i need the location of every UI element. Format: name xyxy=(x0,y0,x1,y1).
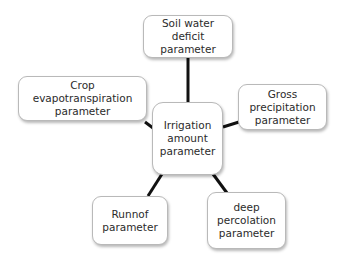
node-label-line: amount xyxy=(160,132,215,145)
node-irrigation-amount: Irrigation amount parameter xyxy=(152,102,223,175)
node-label-line: parameter xyxy=(249,114,315,127)
node-label-line: parameter xyxy=(102,221,157,234)
node-label-line: parameter xyxy=(147,43,229,56)
node-label-line: parameter xyxy=(160,145,215,158)
node-gross-precipitation: Gross precipitation parameter xyxy=(238,84,327,130)
node-label-line: Soil water deficit xyxy=(147,17,229,43)
node-label-line: deep xyxy=(217,201,276,214)
node-label-line: Irrigation xyxy=(160,119,215,132)
diagram-canvas: Soil water deficit parameter Crop evapot… xyxy=(0,0,342,266)
node-soil-water-deficit: Soil water deficit parameter xyxy=(143,15,233,58)
edge-irrigation-runoff xyxy=(148,174,162,196)
edge-irrigation-gross xyxy=(223,122,239,127)
edge-irrigation-deep xyxy=(213,174,227,193)
node-label-line: precipitation xyxy=(249,101,315,114)
node-deep-percolation: deep percolation parameter xyxy=(207,192,286,249)
node-label-line: Runnof xyxy=(102,208,157,221)
node-crop-evapotranspiration: Crop evapotranspiration parameter xyxy=(18,76,147,121)
node-label-line: parameter xyxy=(217,227,276,240)
node-label-line: percolation xyxy=(217,214,276,227)
node-label-line: parameter xyxy=(22,105,143,118)
node-label-line: Crop evapotranspiration xyxy=(22,79,143,105)
node-label-line: Gross xyxy=(249,88,315,101)
node-runoff: Runnof parameter xyxy=(92,196,168,245)
